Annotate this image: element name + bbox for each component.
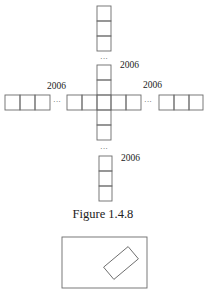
label-top-right: 2006	[120, 60, 139, 70]
top-arm	[97, 6, 111, 51]
left-arm	[5, 95, 50, 110]
bottom-ellipsis: ···	[100, 144, 108, 153]
left-ellipsis: ···	[53, 97, 61, 106]
top-ellipsis: ···	[100, 54, 108, 63]
bottom-arm	[99, 156, 112, 201]
center-horizontal	[67, 95, 141, 110]
label-left: 2006	[47, 81, 66, 91]
right-ellipsis: ···	[144, 97, 152, 106]
figure-caption: Figure 1.4.8	[0, 207, 206, 222]
rotated-rectangle	[104, 247, 139, 280]
second-figure	[62, 237, 147, 288]
label-right: 2006	[143, 80, 162, 90]
right-arm	[159, 95, 203, 110]
center-vertical	[97, 65, 111, 140]
label-bottom-right: 2006	[121, 153, 140, 163]
cross-diagram: ··· ··· ··· ··· 2006 2006 2006 2006	[0, 0, 206, 298]
